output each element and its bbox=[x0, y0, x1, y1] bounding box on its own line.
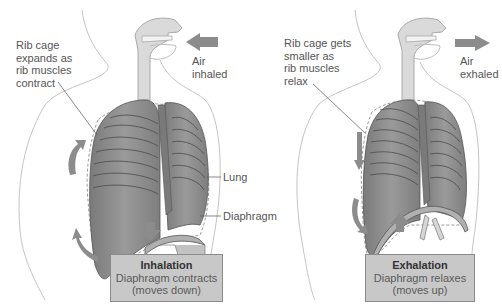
exhalation-line1: Diaphragm relaxes bbox=[366, 272, 474, 285]
air-inhaled-arrow bbox=[186, 33, 218, 51]
exhalation-title: Exhalation bbox=[366, 259, 474, 272]
rib-callout-line bbox=[58, 82, 97, 135]
inhalation-line2: (moves down) bbox=[111, 284, 222, 297]
inhalation-caption-box: Inhalation Diaphragm contracts (moves do… bbox=[110, 254, 223, 302]
rib-cage-expand-label: Rib cage expands as rib muscles contract bbox=[16, 39, 72, 89]
diaphragm-label: Diaphragm bbox=[223, 210, 277, 223]
lung-right bbox=[423, 102, 467, 220]
rib-contract-arrow-upper bbox=[357, 132, 362, 162]
bronchi bbox=[420, 215, 444, 240]
exhalation-line2: (moves up) bbox=[366, 284, 474, 297]
air-exhaled-arrow bbox=[455, 35, 490, 51]
rib-cage-smaller-label: Rib cage gets smaller as rib muscles rel… bbox=[284, 37, 351, 87]
rib-callout-line bbox=[313, 84, 365, 133]
rib-expand-arrow-upper bbox=[68, 140, 86, 175]
lung-label: Lung bbox=[223, 171, 247, 184]
air-inhaled-label: Air inhaled bbox=[192, 55, 227, 80]
air-exhaled-label: Air exhaled bbox=[460, 55, 499, 80]
inhalation-title: Inhalation bbox=[111, 259, 222, 272]
lung-left bbox=[90, 100, 160, 279]
inhalation-line1: Diaphragm contracts bbox=[111, 272, 222, 285]
exhalation-caption-box: Exhalation Diaphragm relaxes (moves up) bbox=[365, 254, 475, 302]
